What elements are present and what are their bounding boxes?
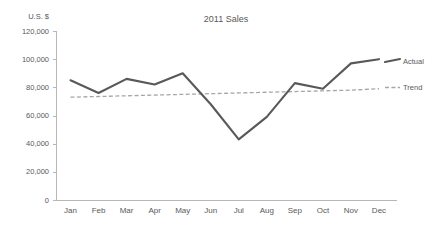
x-axis-tick-label: Mar: [120, 206, 134, 215]
x-axis-tick-label: Oct: [317, 206, 330, 215]
x-axis-tick-label: Sep: [288, 206, 303, 215]
x-axis-tick-labels: JanFebMarAprMayJunJulAugSepOctNovDec: [64, 206, 386, 215]
x-axis-tick-label: Nov: [344, 206, 358, 215]
y-axis-unit-group: U.S. $: [28, 12, 50, 21]
y-axis-tick-marks: [53, 32, 57, 201]
series-line-trend: [71, 89, 379, 97]
chart-title-group: 2011 Sales: [204, 14, 249, 24]
y-axis-unit-label: U.S. $: [28, 12, 50, 21]
x-axis-tick-label: Jul: [234, 206, 244, 215]
y-axis-tick-label: 80,000: [26, 83, 49, 92]
legend-label-trend: Trend: [403, 83, 422, 92]
y-axis-tick-labels: 020,00040,00060,00080,000100,000120,000: [22, 27, 49, 205]
chart-title: 2011 Sales: [204, 14, 249, 24]
legend-swatch-actual: [385, 59, 400, 62]
line-chart: 2011 Sales U.S. $ 020,00040,00060,00080,…: [0, 0, 435, 230]
y-axis-tick-label: 60,000: [26, 111, 49, 120]
x-axis-tick-label: Aug: [260, 206, 274, 215]
x-axis-tick-label: Jun: [204, 206, 217, 215]
x-axis-tick-label: Jan: [64, 206, 77, 215]
x-axis-tick-label: May: [175, 206, 190, 215]
y-axis-tick-label: 120,000: [22, 27, 49, 36]
y-axis-tick-label: 40,000: [26, 139, 49, 148]
chart-container: 2011 Sales U.S. $ 020,00040,00060,00080,…: [0, 0, 435, 230]
legend-label-actual: Actual: [403, 57, 424, 66]
x-axis-tick-label: Dec: [372, 206, 386, 215]
y-axis-tick-label: 100,000: [22, 55, 49, 64]
y-axis-tick-label: 20,000: [26, 167, 49, 176]
series-line-actual: [71, 59, 379, 139]
x-axis-tick-label: Apr: [148, 206, 161, 215]
y-axis-tick-label: 0: [45, 196, 49, 205]
legend: Actual Trend: [385, 57, 424, 92]
x-axis-tick-label: Feb: [92, 206, 106, 215]
